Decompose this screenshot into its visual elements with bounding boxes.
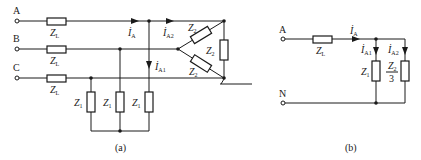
- z2-label-ca: Z2: [206, 45, 215, 57]
- current-label-ia: İA: [127, 27, 136, 39]
- current-arrow-ia: [131, 18, 139, 24]
- terminal-n-label: N: [279, 88, 286, 99]
- terminal-a-label-b: A: [279, 24, 287, 35]
- terminal-a-label: A: [13, 5, 21, 16]
- terminal-c: [15, 76, 19, 80]
- terminal-b: [15, 47, 19, 51]
- terminal-b-label: B: [13, 33, 20, 44]
- terminal-c-label: C: [13, 62, 20, 73]
- z1-load-c: [87, 92, 95, 112]
- neutral-node: [118, 129, 122, 133]
- current-label-ia1: İA1: [154, 61, 166, 73]
- z1-label-a: Z1: [132, 97, 141, 109]
- caption-b: (b): [345, 142, 357, 154]
- z1-load-a: [145, 92, 153, 112]
- z2-third-load: [401, 61, 409, 81]
- z2-label-ab: Z2: [188, 22, 197, 34]
- circuit-b: A N ZL İA İA1 Z1 İA2 Z2 3 (b): [279, 24, 409, 154]
- line-impedance-b-circuit: [313, 36, 332, 43]
- zl-label-b-circuit: ZL: [316, 45, 326, 57]
- current-arrow-ia2: [166, 18, 174, 24]
- line-impedance-a: [47, 18, 66, 25]
- z1-label-b-circuit: Z1: [361, 66, 370, 78]
- line-impedance-b: [47, 46, 66, 53]
- zl-label-b: ZL: [50, 55, 60, 67]
- current-arrow-ia1: [146, 61, 152, 69]
- circuit-figure: A B C ZL ZL ZL İA İA2: [0, 0, 421, 160]
- current-arrow-ia1-b: [373, 47, 379, 55]
- z2-label-bc: Z2: [189, 66, 198, 78]
- z2-third-denominator: 3: [389, 73, 394, 84]
- current-arrow-ia2-b: [402, 47, 408, 55]
- z1-label-b: Z1: [103, 97, 112, 109]
- circuit-a: A B C ZL ZL ZL İA İA2: [13, 5, 252, 154]
- caption-a: (a): [115, 142, 126, 154]
- z2-third-numerator: Z2: [388, 60, 397, 72]
- current-label-ia-b: İA: [349, 25, 358, 37]
- line-impedance-c: [47, 75, 66, 82]
- terminal-a-b: [281, 37, 285, 41]
- z2-load-ca: [220, 40, 228, 60]
- z1-load-b-circuit: [372, 61, 380, 81]
- z1-load-b: [116, 92, 124, 112]
- zl-label-a: ZL: [50, 27, 60, 39]
- terminal-a: [15, 19, 19, 23]
- zl-label-c: ZL: [50, 84, 60, 96]
- terminal-n: [281, 101, 285, 105]
- current-label-ia2: İA2: [162, 27, 174, 39]
- z1-label-c: Z1: [74, 97, 83, 109]
- current-label-ia1-b: İA1: [360, 44, 372, 56]
- current-label-ia2-b: İA2: [387, 44, 399, 56]
